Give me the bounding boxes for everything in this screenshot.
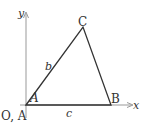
side-c-label: c — [66, 107, 72, 120]
origin-label: O, A — [1, 109, 27, 123]
x-axis-label: x — [133, 99, 140, 112]
vertex-a-angle-label: A — [29, 91, 39, 105]
vertex-c-label: C — [78, 15, 87, 29]
side-b-label: b — [45, 60, 52, 73]
triangle-abc — [26, 27, 111, 105]
y-axis-label: y — [17, 7, 25, 20]
vertex-b-label: B — [111, 92, 120, 106]
triangle-coordinate-diagram: y x O, A A B C b c — [0, 0, 146, 126]
